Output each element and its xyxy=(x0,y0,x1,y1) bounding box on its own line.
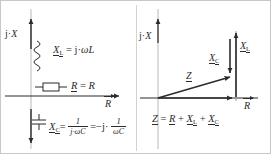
eq-plus-2: + xyxy=(200,113,206,124)
xc-sign-2: −j xyxy=(96,121,105,132)
right-real-axis-label: R xyxy=(244,101,250,111)
eq-plus-1: + xyxy=(178,113,184,124)
xc-subscript: C xyxy=(55,126,59,134)
xc-phasor-label: XC xyxy=(209,53,219,63)
eq-xl-sub: L xyxy=(193,118,197,126)
capacitor-icon xyxy=(32,114,46,130)
xc-equals: = xyxy=(60,121,66,132)
inductor-coil-icon xyxy=(34,41,40,71)
eq-r: R xyxy=(169,113,175,125)
xc-frac2-denominator: ωC xyxy=(111,126,126,136)
xl-equals: = xyxy=(66,44,72,55)
xc-frac2-numerator: 1 xyxy=(111,117,126,126)
z-phasor-symbol: Z xyxy=(186,70,192,82)
r-value: R xyxy=(89,80,95,91)
eq-z: Z xyxy=(152,113,158,125)
xc-dot-2: · xyxy=(105,121,109,132)
xl-value: ωL xyxy=(81,44,94,55)
left-axis-r: R xyxy=(105,98,111,109)
resistance-equation: R = R xyxy=(71,81,95,92)
right-axis-x: X xyxy=(145,30,151,41)
z-phasor-arrow xyxy=(158,77,230,98)
r-equals: = xyxy=(80,80,86,91)
xc-fraction-2: 1 ωC xyxy=(111,117,126,136)
xl-subscript: L xyxy=(59,49,63,57)
impedance-diagram-figure: j·X R XL = j·ωL R = R XC= 1 j·ωC =−j· xyxy=(0,0,271,154)
xc-fraction-1: 1 j·ωC xyxy=(68,117,87,136)
eq-equals: = xyxy=(160,113,166,124)
z-phasor-label: Z xyxy=(186,71,192,81)
xl-phasor-subscript: L xyxy=(246,45,250,53)
resistor-icon xyxy=(35,83,67,91)
right-panel-phasor-sum: j·X R XL XC Z Z = R + XL + XC xyxy=(136,1,271,154)
right-axis-r: R xyxy=(244,100,250,111)
right-imaginary-axis-label: j·X xyxy=(139,31,151,41)
left-real-axis-label: R xyxy=(105,99,111,109)
impedance-sum-equation: Z = R + XL + XC xyxy=(152,114,219,125)
left-panel-component-definitions: j·X R XL = j·ωL R = R XC= 1 j·ωC =−j· xyxy=(1,1,136,154)
eq-xc-sub: C xyxy=(215,118,219,126)
inductive-reactance-equation: XL = j·ωL xyxy=(53,45,94,56)
left-axis-x: X xyxy=(11,28,17,39)
eq-xc: X xyxy=(208,113,214,125)
xc-frac1-numerator: 1 xyxy=(68,117,87,126)
right-axes-graphic xyxy=(136,1,271,154)
xl-phasor-label: XL xyxy=(240,41,250,51)
capacitive-reactance-equation: XC= 1 j·ωC =−j· 1 ωC xyxy=(49,118,126,137)
left-imaginary-axis-label: j·X xyxy=(5,29,17,39)
xc-phasor-subscript: C xyxy=(215,57,219,65)
xc-frac1-denominator: j·ωC xyxy=(68,126,87,136)
r-symbol: R xyxy=(71,80,77,92)
